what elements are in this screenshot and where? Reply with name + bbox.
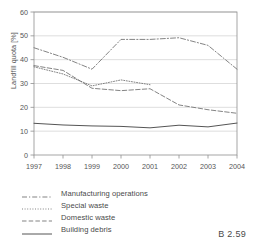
- chart-svg: 0102030405060 19971998199920002001200220…: [0, 0, 254, 182]
- x-axis-ticks: 19971998199920002001200220032004: [26, 155, 245, 171]
- legend-swatch-dash-dot: [22, 188, 52, 198]
- legend-item: Building debris: [22, 224, 242, 236]
- legend-label: Building debris: [61, 225, 112, 234]
- legend-item: Manufacturing operations: [22, 187, 242, 199]
- data-series: [34, 38, 237, 128]
- legend-label: Domestic waste: [61, 213, 115, 222]
- x-tick-label: 1999: [84, 162, 100, 171]
- series-line: [34, 123, 237, 128]
- y-tick-label: 10: [20, 127, 28, 136]
- series-line: [34, 38, 237, 69]
- y-axis-label: Landfill quota [%]: [9, 1, 18, 121]
- y-tick-label: 0: [24, 151, 28, 160]
- legend-item: Special waste: [22, 199, 242, 211]
- series-line: [34, 67, 150, 86]
- legend-swatch-dashed: [22, 212, 52, 222]
- x-tick-label: 2004: [229, 162, 245, 171]
- plot-area: 0102030405060 19971998199920002001200220…: [0, 0, 254, 182]
- legend-swatch-fine-dotted: [22, 200, 52, 210]
- x-tick-label: 2000: [113, 162, 129, 171]
- y-tick-label: 50: [20, 31, 28, 40]
- figure-caption: B 2.59: [218, 229, 246, 239]
- legend-label: Special waste: [61, 201, 109, 210]
- series-line: [34, 66, 237, 114]
- chart-legend: Manufacturing operationsSpecial wasteDom…: [22, 187, 242, 236]
- x-tick-label: 1998: [55, 162, 71, 171]
- legend-item: Domestic waste: [22, 211, 242, 223]
- legend-label: Manufacturing operations: [61, 189, 148, 198]
- y-tick-label: 20: [20, 103, 28, 112]
- y-tick-label: 40: [20, 55, 28, 64]
- y-axis-ticks: 0102030405060: [20, 8, 34, 160]
- legend-swatch-solid: [22, 225, 52, 235]
- figure-landfill-quota: 0102030405060 19971998199920002001200220…: [0, 0, 254, 245]
- x-tick-label: 1997: [26, 162, 42, 171]
- x-tick-label: 2001: [142, 162, 158, 171]
- x-tick-label: 2003: [200, 162, 216, 171]
- x-tick-label: 2002: [171, 162, 187, 171]
- y-tick-label: 30: [20, 79, 28, 88]
- y-tick-label: 60: [20, 8, 28, 17]
